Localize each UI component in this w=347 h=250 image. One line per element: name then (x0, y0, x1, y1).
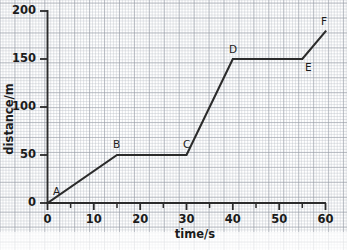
x-tick-label-50: 50 (264, 214, 294, 226)
point-label-b: B (113, 139, 120, 150)
y-axis-title: distance/m (2, 79, 16, 159)
point-label-a: A (53, 186, 60, 197)
x-tick-label-0: 0 (33, 214, 63, 226)
x-tick-label-60: 60 (311, 214, 341, 226)
y-axis-title-wrapper: distance/m (0, 78, 18, 158)
plot-area-svg (0, 0, 347, 250)
y-tick-label-200: 200 (4, 5, 36, 17)
x-tick-label-10: 10 (79, 214, 109, 226)
point-label-e: E (305, 62, 312, 73)
point-label-d: D (229, 44, 237, 55)
x-tick-label-30: 30 (172, 214, 202, 226)
point-label-c: C (183, 139, 190, 150)
x-tick-label-20: 20 (125, 214, 155, 226)
x-axis-major-ticks (48, 203, 326, 210)
distance-time-graph-figure: 200 150 100 50 0 0 10 20 30 40 50 60 tim… (0, 0, 347, 250)
x-tick-label-40: 40 (218, 214, 248, 226)
point-label-f: F (321, 16, 327, 27)
distance-time-line (48, 32, 326, 204)
x-axis-title: time/s (155, 229, 235, 241)
y-tick-label-0: 0 (4, 197, 36, 209)
y-tick-label-150: 150 (4, 53, 36, 65)
y-axis-ticks (40, 11, 48, 203)
